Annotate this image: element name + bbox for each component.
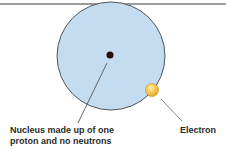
electron-label: Electron — [180, 125, 216, 136]
nucleus-label-line1: Nucleus made up of one — [10, 125, 130, 136]
electron-leader-line — [161, 99, 182, 121]
electron — [146, 84, 159, 97]
nucleus — [107, 52, 114, 59]
nucleus-label-line2: proton and no neutrons — [10, 136, 130, 147]
nucleus-label: Nucleus made up of one proton and no neu… — [10, 125, 130, 147]
